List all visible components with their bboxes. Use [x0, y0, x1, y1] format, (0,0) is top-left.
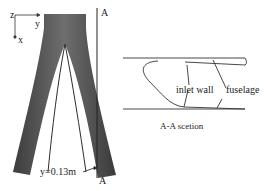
inlet-3d-body	[13, 14, 116, 178]
inlet-wall-label: inlet wall	[176, 85, 214, 95]
section-marker-bottom: A	[99, 176, 106, 186]
position-label: y=0.13m	[40, 167, 76, 177]
diagram-canvas	[0, 0, 270, 191]
section-marker-top: A	[101, 8, 108, 18]
fuselage-label: fuselage	[226, 85, 259, 95]
section-caption: A-A scetion	[160, 122, 203, 131]
axis-label-x: x	[18, 35, 23, 45]
axis-label-z: z	[10, 10, 14, 20]
axis-label-y: y	[35, 19, 40, 29]
